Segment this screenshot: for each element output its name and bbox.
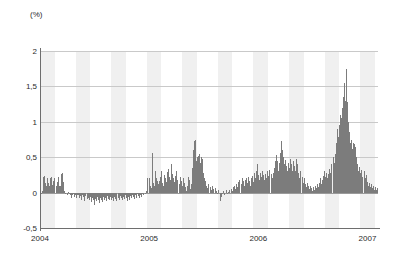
bar (224, 193, 225, 196)
bar (227, 193, 228, 194)
chart-container: (%) 21,510,50-0,5 2004200520062007 (0, 0, 403, 260)
y-tick-label: 1 (1, 117, 37, 126)
bar (222, 193, 223, 194)
x-tick-label: 2007 (359, 234, 377, 243)
y-tick-label: 2 (1, 47, 37, 56)
x-axis-spine (40, 228, 380, 229)
x-tick-label: 2006 (249, 234, 267, 243)
y-tick-label: 0,5 (1, 153, 37, 162)
bar (41, 193, 42, 194)
bar (377, 188, 378, 192)
bar (67, 193, 68, 195)
y-tick-label: 1,5 (1, 82, 37, 91)
x-tick-label: 2005 (140, 234, 158, 243)
y-axis-spine (40, 48, 41, 231)
plot-area (40, 51, 378, 228)
y-tick-label: 0 (1, 188, 37, 197)
bar (229, 190, 230, 193)
bar (145, 193, 146, 194)
bar (213, 189, 214, 193)
y-axis-tick-labels: 21,510,50-0,5 (0, 0, 37, 260)
x-tick-label: 2004 (31, 234, 49, 243)
bar (143, 193, 144, 196)
bar-series (40, 51, 378, 228)
bar (65, 193, 66, 194)
bar (217, 193, 218, 194)
y-tick-label: -0,5 (1, 224, 37, 233)
bar (218, 190, 219, 193)
